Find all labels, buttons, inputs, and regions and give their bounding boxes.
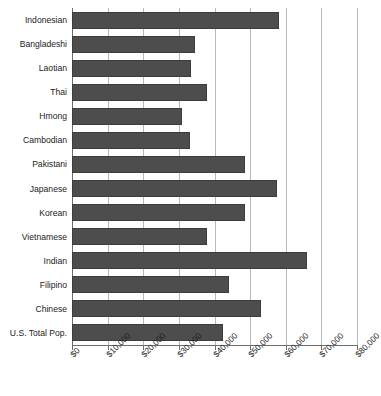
bar [72, 84, 207, 101]
category-label: Pakistani [0, 159, 67, 169]
category-axis: IndonesianBangladeshiLaotianThaiHmongCam… [0, 8, 70, 345]
bar [72, 180, 277, 197]
bar [72, 300, 261, 317]
category-label: U.S. Total Pop. [0, 328, 67, 338]
category-label: Vietnamese [0, 232, 67, 242]
gridline-80000 [357, 8, 358, 345]
category-label: Indian [0, 256, 67, 266]
category-label: Thai [0, 87, 67, 97]
bar [72, 204, 245, 221]
bar [72, 60, 191, 77]
bar [72, 252, 307, 269]
category-label: Laotian [0, 63, 67, 73]
bar [72, 12, 279, 29]
bar-series [72, 8, 357, 345]
category-label: Filipino [0, 280, 67, 290]
bar [72, 132, 190, 149]
category-label: Chinese [0, 304, 67, 314]
bar [72, 36, 195, 53]
category-label: Cambodian [0, 135, 67, 145]
category-label: Indonesian [0, 15, 67, 25]
category-label: Korean [0, 208, 67, 218]
bar [72, 228, 207, 245]
tick-label: $0 [68, 345, 82, 359]
bar [72, 276, 229, 293]
category-label: Bangladeshi [0, 39, 67, 49]
category-label: Japanese [0, 184, 67, 194]
bar [72, 108, 182, 125]
category-label: Hmong [0, 111, 67, 121]
plot-area [72, 8, 357, 345]
bar [72, 156, 245, 173]
